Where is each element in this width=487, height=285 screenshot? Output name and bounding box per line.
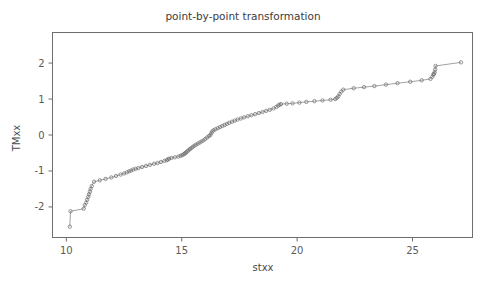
figure-background	[0, 0, 487, 285]
y-tick-label: 2	[38, 58, 44, 69]
y-tick-label: 0	[38, 130, 44, 141]
x-tick-label: 20	[291, 245, 304, 256]
x-tick-label: 10	[60, 245, 73, 256]
chart-figure: point-by-point transformation 10152025 -…	[0, 0, 487, 285]
x-axis-title: stxx	[253, 262, 274, 273]
y-tick-label: -2	[35, 201, 45, 212]
y-axis-title: TMxx	[11, 125, 22, 153]
chart-canvas: point-by-point transformation 10152025 -…	[0, 0, 487, 285]
x-tick-label: 25	[406, 245, 419, 256]
y-tick-label: -1	[35, 165, 45, 176]
x-tick-label: 15	[175, 245, 188, 256]
y-tick-label: 1	[38, 94, 44, 105]
chart-title: point-by-point transformation	[165, 10, 320, 22]
